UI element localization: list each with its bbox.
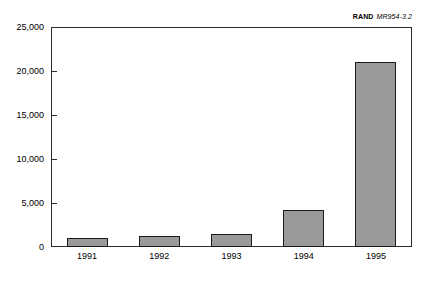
bar [67, 238, 108, 247]
bar [355, 62, 396, 247]
y-tick-mark [51, 159, 57, 160]
bar-series [51, 27, 412, 247]
x-tick-label: 1992 [123, 251, 195, 262]
y-tick-mark [51, 203, 57, 204]
y-tick-label: 20,000 [0, 67, 44, 76]
x-tick-label: 1991 [51, 251, 123, 262]
y-axis: 05,00010,00015,00020,00025,000 [0, 0, 44, 291]
credit-organization: RAND [353, 13, 374, 20]
bar [139, 236, 180, 247]
y-tick-label: 5,000 [0, 199, 44, 208]
y-tick-label: 0 [0, 243, 44, 252]
y-tick-label: 15,000 [0, 111, 44, 120]
y-tick-label: 25,000 [0, 23, 44, 32]
bar [283, 210, 324, 247]
y-tick-label: 10,000 [0, 155, 44, 164]
credit-document-number: MR954-3.2 [376, 13, 412, 20]
x-tick-label: 1994 [268, 251, 340, 262]
x-tick-label: 1993 [195, 251, 267, 262]
y-tick-mark [51, 115, 57, 116]
y-tick-mark [51, 71, 57, 72]
chart-figure: RANDMR954-3.2 05,00010,00015,00020,00025… [0, 0, 423, 291]
source-credit: RANDMR954-3.2 [353, 12, 412, 22]
x-axis: 19911992199319941995 [51, 251, 412, 269]
x-tick-label: 1995 [340, 251, 412, 262]
bar [211, 234, 252, 247]
